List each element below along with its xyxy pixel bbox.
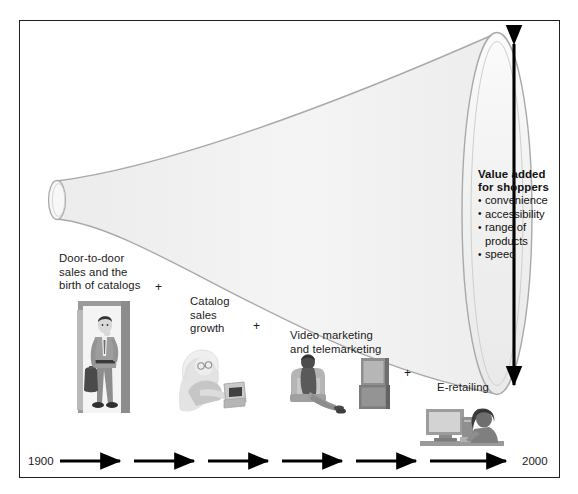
stage-label-door-to-door: Door-to-door sales and the birth of cata… xyxy=(59,252,140,293)
stage-label-catalog: Catalog sales growth xyxy=(190,295,230,336)
plus-connector-2: + xyxy=(253,320,260,332)
stage-label-e-retailing: E-retailing xyxy=(437,381,489,395)
salesman-in-doorway-icon xyxy=(77,300,143,420)
timeline-start-year: 1900 xyxy=(28,455,54,467)
value-added-title: Value added for shoppers xyxy=(478,168,558,194)
value-added-callout: Value added for shoppers convenience acc… xyxy=(478,168,558,261)
timeline-end-year: 2000 xyxy=(522,455,548,467)
plus-connector-1: + xyxy=(155,281,162,293)
person-at-computer-icon xyxy=(420,403,504,447)
value-added-item: convenience xyxy=(478,194,558,207)
value-added-item: speed xyxy=(478,248,558,261)
value-added-list: convenience accessibility range of produ… xyxy=(478,194,558,261)
person-watching-tv-icon xyxy=(289,352,392,414)
value-added-item: range of products xyxy=(478,221,558,248)
plus-connector-3: + xyxy=(404,367,411,379)
person-reading-catalog-icon xyxy=(174,338,252,414)
value-added-item: accessibility xyxy=(478,208,558,221)
figure-canvas: Door-to-door sales and the birth of cata… xyxy=(0,0,578,494)
